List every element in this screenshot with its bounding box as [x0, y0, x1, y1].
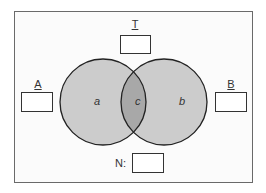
total-value-box[interactable] [132, 153, 164, 173]
region-c-label: c [135, 95, 141, 107]
set-b-value-box[interactable] [215, 92, 247, 112]
set-a-label: A [31, 78, 45, 90]
universe-label: T [128, 18, 142, 30]
set-a-value-box[interactable] [21, 92, 53, 112]
region-b-label: b [179, 95, 185, 107]
set-b-label: B [224, 78, 238, 90]
total-label: N: [115, 157, 126, 169]
region-a-label: a [94, 95, 100, 107]
universe-value-box[interactable] [120, 35, 151, 54]
